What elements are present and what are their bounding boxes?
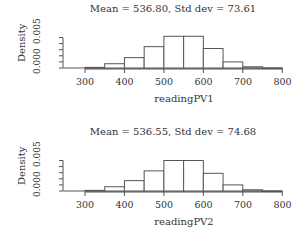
histogram-1-xtick-300: 300 xyxy=(76,76,94,87)
histogram-bar xyxy=(164,161,184,192)
histogram-2-xtick-400: 400 xyxy=(115,199,133,210)
histogram-bar xyxy=(223,185,243,191)
histogram-bar xyxy=(144,47,164,68)
histogram-bar xyxy=(223,62,243,68)
histogram-bar xyxy=(85,67,105,68)
histogram-1-xtick-400: 400 xyxy=(115,76,133,87)
histogram-bar xyxy=(105,187,125,191)
histogram-bar xyxy=(203,48,223,68)
histogram-bar xyxy=(124,181,144,191)
histogram-1-xtick-800: 800 xyxy=(273,76,291,87)
histogram-1-ytick-0: 0.000 xyxy=(32,48,42,74)
histogram-1-title: Mean = 536.80, Std dev = 73.61 xyxy=(0,3,306,14)
histogram-2-xtick-800: 800 xyxy=(273,199,291,210)
histogram-1-xlabel: readingPV1 xyxy=(0,93,306,104)
histogram-2-ytick-0: 0.000 xyxy=(32,171,42,197)
histogram-1-ytick-5: 0.005 xyxy=(32,18,42,44)
histogram-2-xtick-700: 700 xyxy=(234,199,252,210)
histogram-bar xyxy=(85,190,105,191)
histogram-2-xlabel: readingPV2 xyxy=(0,216,306,227)
histogram-bar xyxy=(144,171,164,191)
histogram-bar xyxy=(243,190,263,191)
histogram-bar xyxy=(184,161,204,192)
histogram-2-xtick-300: 300 xyxy=(76,199,94,210)
histogram-2-xtick-500: 500 xyxy=(155,199,173,210)
histogram-2-xtick-600: 600 xyxy=(194,199,212,210)
histogram-2-title: Mean = 536.55, Std dev = 74.68 xyxy=(0,126,306,137)
histogram-1-xtick-500: 500 xyxy=(155,76,173,87)
histogram-bar xyxy=(203,173,223,191)
histogram-1-ylabel: Density xyxy=(16,24,27,62)
histogram-panel-1: Mean = 536.80, Std dev = 73.61 Density 0… xyxy=(0,0,306,117)
histogram-bar xyxy=(105,64,125,68)
histogram-bar xyxy=(164,36,184,68)
histogram-1-xtick-700: 700 xyxy=(234,76,252,87)
histogram-bar xyxy=(124,58,144,68)
histogram-bar xyxy=(184,36,204,68)
histogram-2-ylabel: Density xyxy=(16,147,27,185)
histogram-1-xtick-600: 600 xyxy=(194,76,212,87)
histogram-2-ytick-5: 0.005 xyxy=(32,141,42,167)
histogram-bar xyxy=(243,67,263,68)
histogram-panel-2: Mean = 536.55, Std dev = 74.68 Density 0… xyxy=(0,123,306,234)
